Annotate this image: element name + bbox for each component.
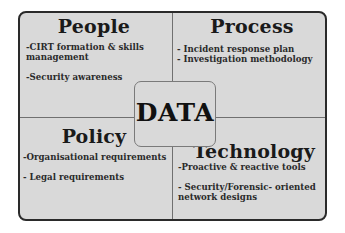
technology-item: - Security/Forensic- oriented network de…	[178, 182, 327, 202]
technology-item: -Proactive & reactive tools	[178, 162, 327, 172]
process-item: - Investigation methodology	[177, 54, 327, 64]
center-label: DATA	[136, 98, 214, 127]
quadrant-title-people: People	[18, 15, 172, 37]
quadrant-process: Process - Incident response plan - Inves…	[177, 15, 327, 64]
quadrant-people: People -CIRT formation & skills manageme…	[26, 15, 172, 82]
center-data-box: DATA	[134, 81, 216, 147]
quadrant-title-process: Process	[177, 15, 327, 37]
policy-item: -Organisational requirements	[23, 152, 173, 162]
policy-item: - Legal requirements	[23, 172, 173, 182]
process-item: - Incident response plan	[177, 44, 327, 54]
quadrant-technology: Technology -Proactive & reactive tools -…	[178, 140, 327, 202]
people-item: -CIRT formation & skills management	[26, 42, 172, 62]
